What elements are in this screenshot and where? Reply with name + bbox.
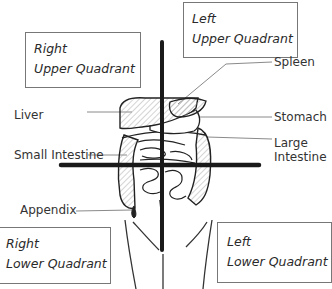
right-lower-quadrant-box: Right Lower Quadrant	[0, 227, 111, 284]
left-upper-quadrant-name: Upper Quadrant	[192, 29, 297, 49]
left-upper-quadrant-side: Left	[192, 9, 297, 29]
torso-outline	[125, 220, 212, 289]
left-lower-quadrant-side: Left	[227, 232, 331, 252]
spleen-shape	[169, 98, 206, 117]
right-upper-quadrant-box: Right Upper Quadrant	[25, 32, 141, 88]
left-lower-quadrant-box: Left Lower Quadrant	[217, 222, 332, 283]
large-intestine-label-line2: Intestine	[274, 150, 327, 164]
right-upper-quadrant-name: Upper Quadrant	[34, 59, 140, 79]
right-upper-quadrant-side: Right	[34, 39, 140, 59]
small-intestine-label: Small Intestine	[14, 148, 104, 162]
left-upper-quadrant-box: Left Upper Quadrant	[183, 2, 298, 58]
spleen-label: Spleen	[274, 55, 315, 69]
left-lower-quadrant-name: Lower Quadrant	[227, 252, 331, 272]
liver-label: Liver	[14, 108, 43, 122]
right-lower-quadrant-side: Right	[6, 234, 110, 254]
stomach-label: Stomach	[274, 110, 327, 124]
appendix-label: Appendix	[20, 203, 76, 217]
large-intestine-label-line1: Large	[274, 136, 308, 150]
small-intestine	[138, 140, 195, 250]
right-lower-quadrant-name: Lower Quadrant	[6, 254, 110, 274]
